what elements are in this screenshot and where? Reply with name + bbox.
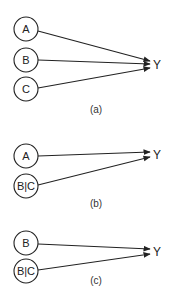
edge-bc-to-y: [38, 254, 150, 270]
node-b-given-c: B|C: [14, 259, 38, 283]
node-c: C: [14, 77, 38, 101]
target-node-y: Y: [153, 148, 161, 162]
node-label: C: [22, 83, 30, 95]
diagram-canvas: A B C Y (a) A B|C Y (b) B: [0, 0, 173, 299]
edge-c-to-y: [38, 68, 150, 88]
target-node-y: Y: [153, 245, 161, 259]
node-a: A: [14, 144, 38, 168]
panel-c: B B|C Y (c): [14, 231, 161, 286]
node-a: A: [14, 17, 38, 41]
node-label: A: [22, 23, 30, 35]
node-label: B: [22, 54, 29, 66]
edge-a-to-y: [38, 31, 150, 61]
panel-b: A B|C Y (b): [14, 144, 161, 209]
edge-b-to-y: [38, 60, 150, 64]
node-b: B: [14, 48, 38, 72]
target-node-y: Y: [153, 58, 161, 72]
edge-bc-to-y: [38, 157, 150, 185]
edge-b-to-y: [38, 244, 150, 249]
node-label: B|C: [17, 180, 35, 192]
node-b: B: [14, 231, 38, 255]
panel-a: A B C Y (a): [14, 17, 161, 115]
node-label: B|C: [17, 265, 35, 277]
edge-a-to-y: [38, 152, 150, 156]
panel-caption: (a): [90, 104, 102, 115]
node-b-given-c: B|C: [14, 174, 38, 198]
node-label: A: [22, 150, 30, 162]
node-label: B: [22, 237, 29, 249]
panel-caption: (c): [90, 275, 102, 286]
panel-caption: (b): [90, 198, 102, 209]
